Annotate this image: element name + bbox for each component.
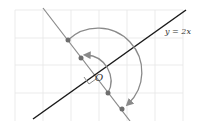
point-inner-end (79, 56, 84, 61)
point-outer-start (66, 38, 71, 43)
diagram-canvas: O y = 2x (0, 0, 200, 121)
grid (15, 10, 183, 121)
main-line-y-2x (33, 10, 186, 119)
line-equation-label: y = 2x (164, 27, 191, 36)
point-outer-end (120, 107, 125, 112)
origin-label: O (95, 72, 103, 83)
point-inner-start (106, 91, 111, 96)
perpendicular-line (43, 8, 130, 121)
